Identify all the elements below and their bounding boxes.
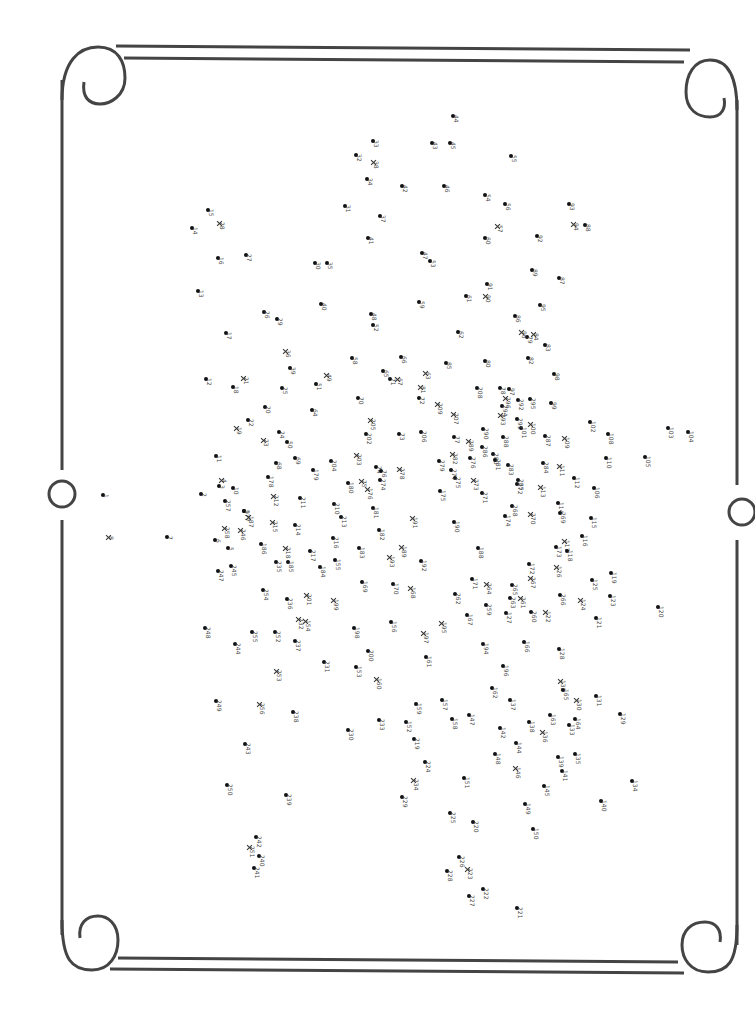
point-number-label: 271: [482, 492, 488, 503]
point-number-label: 129: [620, 713, 626, 724]
point-number-label: 169: [362, 581, 368, 592]
point-number-label: 142: [500, 727, 506, 738]
point-number-label: 53: [430, 260, 436, 268]
point-number-label: 35: [327, 262, 333, 270]
point-number-label: 121: [596, 617, 602, 628]
point-number-label: 213: [341, 516, 347, 527]
point-number-label: 63: [425, 372, 431, 380]
point-number-label: 212: [273, 495, 279, 506]
point-number-label: 178: [268, 476, 274, 487]
point-number-label: 104: [688, 431, 694, 442]
point-number-label: 73: [399, 433, 405, 441]
point-number-label: 174: [505, 515, 511, 526]
point-number-label: 21: [243, 377, 249, 385]
point-number-label: 85: [446, 362, 452, 370]
point-number-label: 41: [368, 237, 374, 245]
point-number-label: 197: [423, 632, 429, 643]
point-number-label: 173: [556, 546, 562, 557]
point-number-label: 211: [300, 497, 306, 508]
point-number-label: 7: [167, 536, 173, 540]
point-number-label: 228: [447, 870, 453, 881]
point-number-label: 20: [265, 406, 271, 414]
point-number-label: 32: [356, 154, 362, 162]
point-number-label: 283: [508, 464, 514, 475]
point-number-label: 154: [305, 620, 311, 631]
point-number-label: 144: [516, 742, 522, 753]
point-number-label: 244: [235, 643, 241, 654]
point-number-label: 131: [596, 695, 602, 706]
point-number-label: 12: [206, 378, 212, 386]
point-number-label: 165: [563, 689, 569, 700]
point-number-label: 290: [483, 428, 489, 439]
point-number-label: 68: [276, 462, 282, 470]
point-number-label: 226: [459, 856, 465, 867]
point-number-label: 113: [540, 486, 546, 497]
point-number-label: 225: [450, 812, 456, 823]
point-number-label: 296: [505, 397, 511, 408]
point-number-label: 236: [287, 598, 293, 609]
point-number-label: 106: [594, 487, 600, 498]
point-number-label: 237: [295, 640, 301, 651]
point-number-label: 202: [366, 433, 372, 444]
point-number-label: 249: [216, 700, 222, 711]
point-number-label: 19: [236, 427, 242, 435]
point-number-label: 123: [610, 595, 616, 606]
point-number-label: 11: [216, 455, 222, 463]
point-number-label: 168: [410, 587, 416, 598]
point-number-label: 122: [545, 611, 551, 622]
point-number-label: 239: [286, 794, 292, 805]
point-number-label: 259: [486, 604, 492, 615]
point-number-label: 262: [455, 593, 461, 604]
point-number-label: 167: [467, 614, 473, 625]
point-number-label: 204: [331, 460, 337, 471]
point-number-label: 284: [543, 462, 549, 473]
point-number-label: 96: [521, 331, 527, 339]
point-number-label: 187: [248, 516, 254, 527]
point-number-label: 130: [576, 699, 582, 710]
point-number-label: 222: [483, 888, 489, 899]
point-number-label: 109: [564, 437, 570, 448]
point-number-label: 80: [485, 360, 491, 368]
point-number-label: 164: [575, 718, 581, 729]
point-number-label: 60: [485, 237, 491, 245]
point-number-label: 44: [453, 115, 459, 123]
point-number-label: 27: [246, 254, 252, 262]
point-number-label: 31: [345, 205, 351, 213]
point-number-label: 196: [503, 665, 509, 676]
point-number-label: 252: [275, 631, 281, 642]
point-number-label: 270: [530, 513, 536, 524]
point-number-label: 153: [356, 666, 362, 677]
point-number-label: 291: [517, 418, 523, 429]
point-number-label: 151: [464, 777, 470, 788]
point-number-label: 34: [367, 178, 373, 186]
point-number-label: 120: [658, 606, 664, 617]
point-number-label: 78: [500, 387, 506, 395]
point-number-label: 172: [529, 563, 535, 574]
point-number-label: 90: [485, 295, 491, 303]
point-number-label: 82: [528, 357, 534, 365]
point-number-label: 231: [324, 661, 330, 672]
point-number-label: 55: [511, 155, 517, 163]
point-number-label: 83: [545, 344, 551, 352]
point-number-label: 215: [272, 521, 278, 532]
point-number-label: 282: [452, 453, 458, 464]
point-number-label: 235: [276, 561, 282, 572]
point-number-label: 30: [315, 262, 321, 270]
point-number-label: 278: [399, 468, 405, 479]
point-number-label: 87: [559, 277, 565, 285]
point-number-label: 38: [373, 161, 379, 169]
point-number-label: 158: [452, 718, 458, 729]
point-number-label: 181: [373, 507, 379, 518]
point-number-label: 43: [432, 142, 438, 150]
point-number-label: 286: [482, 446, 488, 457]
point-number-label: 253: [276, 670, 282, 681]
point-number-label: 180: [348, 482, 354, 493]
point-number-label: 216: [333, 537, 339, 548]
point-number-label: 188: [478, 547, 484, 558]
point-number-label: 15: [208, 209, 214, 217]
point-number-label: 40: [321, 303, 327, 311]
point-number-label: 23: [263, 439, 269, 447]
point-number-label: 61: [466, 295, 472, 303]
point-number-label: 276: [470, 457, 476, 468]
point-number-label: 250: [227, 784, 233, 795]
